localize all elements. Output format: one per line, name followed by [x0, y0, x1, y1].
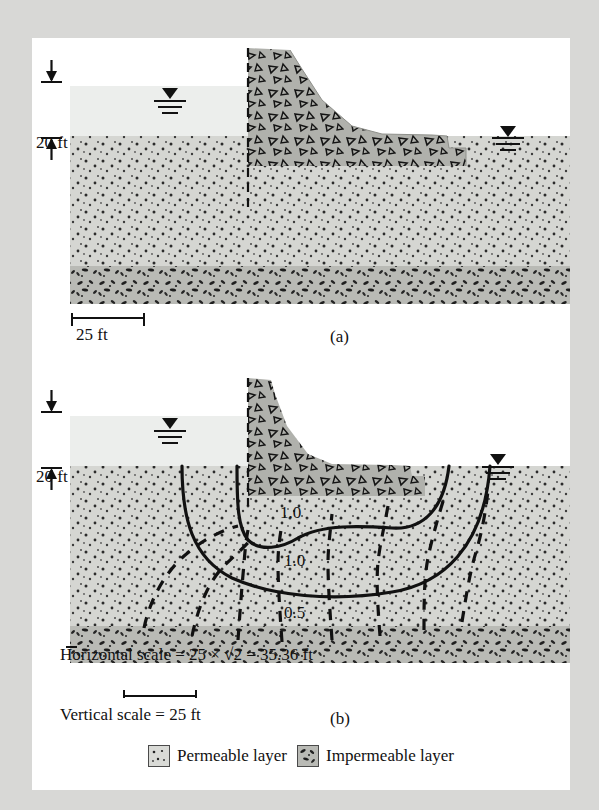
upstream-water-body-b	[70, 416, 252, 466]
flownet-label-2: 0.5	[284, 603, 305, 622]
legend-label-permeable: Permeable layer	[177, 746, 287, 766]
horizontal-scale-times: ×	[210, 645, 220, 664]
legend: Permeable layer Impermeable layer	[32, 745, 570, 767]
impermeable-layer-a	[70, 266, 570, 304]
upstream-water-body-a	[70, 86, 252, 136]
square-root-symbol: √2	[224, 645, 242, 664]
impermeable-swatch-icon	[297, 745, 319, 767]
permeable-swatch-icon	[148, 745, 170, 767]
scale-bar-label-a: 25 ft	[76, 326, 108, 343]
scale-bar-b	[124, 690, 196, 698]
part-caption-b: (b)	[330, 710, 350, 727]
vertical-scale-label: Vertical scale = 25 ft	[60, 706, 201, 723]
legend-item-impermeable: Impermeable layer	[297, 745, 454, 767]
head-dimension-label-b: 20 ft	[36, 468, 68, 485]
part-caption-a: (a)	[330, 328, 349, 345]
horizontal-scale-result: = 35.36 ft	[246, 645, 313, 664]
horizontal-scale-prefix: Horizontal scale = 25	[60, 645, 206, 664]
legend-label-impermeable: Impermeable layer	[326, 746, 454, 766]
radicand: 2	[233, 645, 242, 664]
dam-body-a	[248, 48, 466, 166]
flownet-label-1: 1.0	[284, 551, 305, 570]
flownet-label-0: 1.0	[280, 503, 301, 522]
legend-item-permeable: Permeable layer	[148, 745, 287, 767]
dam-body-b	[248, 378, 425, 496]
figure-panel: 20 ft 25 ft (a)	[32, 38, 570, 790]
figure-page: 20 ft 25 ft (a)	[0, 0, 599, 810]
horizontal-scale-label: Horizontal scale = 25 × √2 = 35.36 ft	[60, 646, 313, 663]
figure-a-diagram	[32, 38, 570, 378]
head-dimension-label-a: 20 ft	[36, 134, 68, 151]
